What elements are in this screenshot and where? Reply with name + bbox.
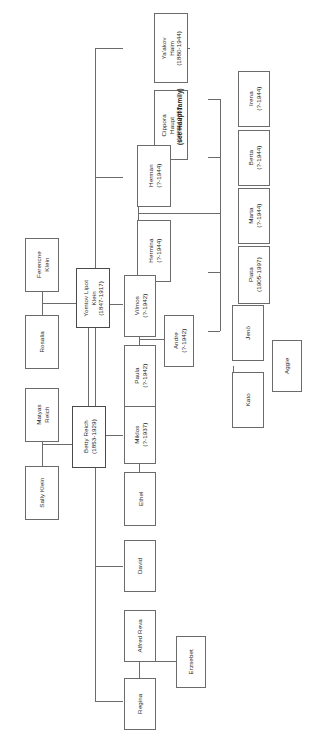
person-label: Paula (?-1942) bbox=[132, 364, 147, 388]
connector-line bbox=[208, 213, 220, 214]
person-node-vilmos[interactable]: Vilmos (?-1942) bbox=[124, 275, 156, 337]
person-node-jeno[interactable]: Jenö bbox=[232, 305, 264, 361]
person-label: Vilmos (?-1942) bbox=[132, 294, 147, 318]
person-label: Sally Klein bbox=[38, 478, 46, 508]
connector-line bbox=[208, 99, 220, 100]
connector-line bbox=[95, 177, 123, 178]
person-label: Yomtov Lipot Klein (1847-1917) bbox=[82, 280, 105, 317]
person-node-erzsebet[interactable]: Erzsebet bbox=[176, 636, 206, 688]
person-label: Irena (?-1944) bbox=[246, 87, 261, 111]
person-node-yomtov-lipot-klein[interactable]: Yomtov Lipot Klein (1847-1917) bbox=[76, 268, 110, 328]
person-node-irena[interactable]: Irena (?-1944) bbox=[238, 71, 270, 127]
connector-line bbox=[95, 566, 123, 567]
person-node-sally-klein[interactable]: Sally Klein bbox=[25, 466, 59, 520]
connector-line bbox=[42, 444, 72, 445]
person-node-yaakov-haim[interactable]: Ya'akov Haim (1880-1944) bbox=[154, 13, 188, 83]
person-node-marta[interactable]: Marta (?-1944) bbox=[238, 188, 270, 244]
person-label: Marta (?-1944) bbox=[246, 204, 261, 228]
person-label: Herman (?-1944) bbox=[146, 164, 161, 188]
family-tree-diagram: Ya'akov Haim (1880-1944) Cippora Haupt (… bbox=[0, 0, 311, 744]
person-node-kato[interactable]: Kato bbox=[232, 372, 264, 428]
person-label: Aggie bbox=[283, 358, 291, 374]
person-node-rosalia[interactable]: Rosalia bbox=[25, 315, 59, 369]
person-label: Ethel bbox=[136, 492, 144, 507]
person-node-alfred-reva[interactable]: Alfred Reva bbox=[124, 610, 156, 662]
connector-line bbox=[208, 272, 220, 273]
person-label: Kato bbox=[244, 393, 252, 406]
person-node-berta[interactable]: Berta (?-1944) bbox=[238, 130, 270, 186]
person-label: Ya'akov Haim (1880-1944) bbox=[160, 31, 183, 66]
person-node-matyas-reich[interactable]: Matyas Reich bbox=[25, 388, 59, 442]
person-label: Berta (?-1944) bbox=[246, 146, 261, 170]
person-label: Ferencne Klein bbox=[34, 252, 49, 279]
person-label: Erzsebet bbox=[187, 649, 195, 674]
person-node-betty-reich[interactable]: Betty Reich (1853-1929) bbox=[72, 406, 106, 468]
person-node-piata[interactable]: Piata (1905-1997) bbox=[238, 246, 270, 304]
person-label: Hermina (?-1944) bbox=[146, 239, 161, 263]
connector-line bbox=[95, 701, 123, 702]
person-label: Betty Reich (1853-1929) bbox=[81, 420, 96, 455]
person-node-aggie[interactable]: Aggie bbox=[272, 340, 302, 392]
connector-line bbox=[42, 291, 43, 317]
person-label: David bbox=[136, 558, 144, 574]
person-node-regina[interactable]: Regina bbox=[124, 678, 156, 730]
person-label: Matyas Reich bbox=[34, 405, 49, 426]
person-label: Rosalia bbox=[38, 331, 46, 352]
person-label: Piata (1905-1997) bbox=[246, 258, 261, 293]
person-node-paula[interactable]: Paula (?-1942) bbox=[124, 345, 156, 407]
connector-line bbox=[95, 48, 96, 292]
person-label: Regina bbox=[136, 694, 144, 714]
connector-line bbox=[95, 292, 96, 702]
person-label: Alfred Reva bbox=[136, 619, 144, 652]
connector-line bbox=[208, 331, 220, 332]
person-node-ethel[interactable]: Ethel bbox=[124, 472, 156, 526]
connector-line bbox=[220, 99, 221, 331]
person-node-herman[interactable]: Herman (?-1944) bbox=[137, 145, 171, 207]
person-label: Andre (?-1942) bbox=[171, 329, 186, 353]
person-node-miklos[interactable]: Miklos (?-1937) bbox=[124, 406, 156, 464]
person-node-hermina[interactable]: Hermina (?-1944) bbox=[137, 220, 171, 282]
person-node-andre[interactable]: Andre (?-1942) bbox=[164, 315, 194, 367]
connector-line bbox=[208, 157, 220, 158]
person-node-david[interactable]: David bbox=[124, 540, 156, 592]
connector-line bbox=[95, 48, 123, 49]
haupt-family-note: (see Haupt family) bbox=[176, 88, 183, 145]
person-node-ferencne-klein[interactable]: Ferencne Klein bbox=[25, 238, 59, 292]
person-label: Miklos (?-1937) bbox=[132, 423, 147, 447]
connector-line bbox=[42, 303, 76, 304]
person-label: Jenö bbox=[244, 326, 252, 340]
